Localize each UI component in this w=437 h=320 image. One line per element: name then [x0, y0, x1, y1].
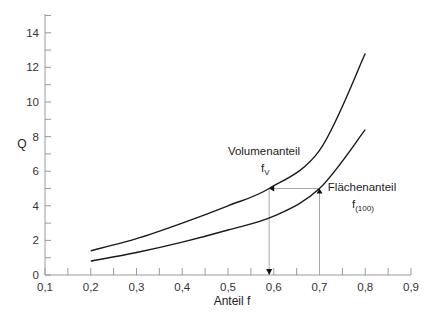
curves: [91, 54, 366, 262]
y-tick-label: 6: [33, 165, 39, 177]
y-tick-label: 0: [33, 269, 39, 281]
y-tick-label: 2: [33, 234, 39, 246]
guide-lines: [266, 186, 322, 276]
flaechenanteil-symbol: f(100): [352, 198, 374, 213]
x-tick-label: 0,6: [266, 281, 282, 293]
volumenanteil-symbol: fV: [261, 162, 270, 177]
arrow-down-icon: [266, 269, 272, 275]
x-tick-label: 0,2: [83, 281, 99, 293]
x-tick-label: 0,8: [357, 281, 373, 293]
y-tick-label: 4: [33, 200, 40, 212]
x-tick-label: 0,3: [129, 281, 145, 293]
chart: 024681012140,10,20,30,40,50,60,70,80,9 A…: [0, 0, 437, 320]
x-axis-title: Anteil f: [214, 294, 251, 308]
axes: 024681012140,10,20,30,40,50,60,70,80,9: [26, 14, 419, 293]
x-tick-label: 0,1: [37, 281, 53, 293]
y-tick-label: 10: [26, 96, 39, 108]
y-tick-label: 12: [26, 61, 39, 73]
y-tick-label: 8: [33, 131, 39, 143]
annotations: Anteil f Q Volumenanteil fV Flächenantei…: [17, 137, 396, 308]
volumenanteil-label: Volumenanteil: [228, 145, 300, 157]
x-tick-label: 0,4: [174, 281, 191, 293]
x-tick-label: 0,9: [403, 281, 419, 293]
x-tick-label: 0,5: [220, 281, 236, 293]
y-axis-title: Q: [17, 137, 26, 151]
flaechenanteil-label: Flächenanteil: [328, 181, 396, 193]
x-tick-label: 0,7: [312, 281, 328, 293]
y-tick-label: 14: [26, 27, 39, 39]
